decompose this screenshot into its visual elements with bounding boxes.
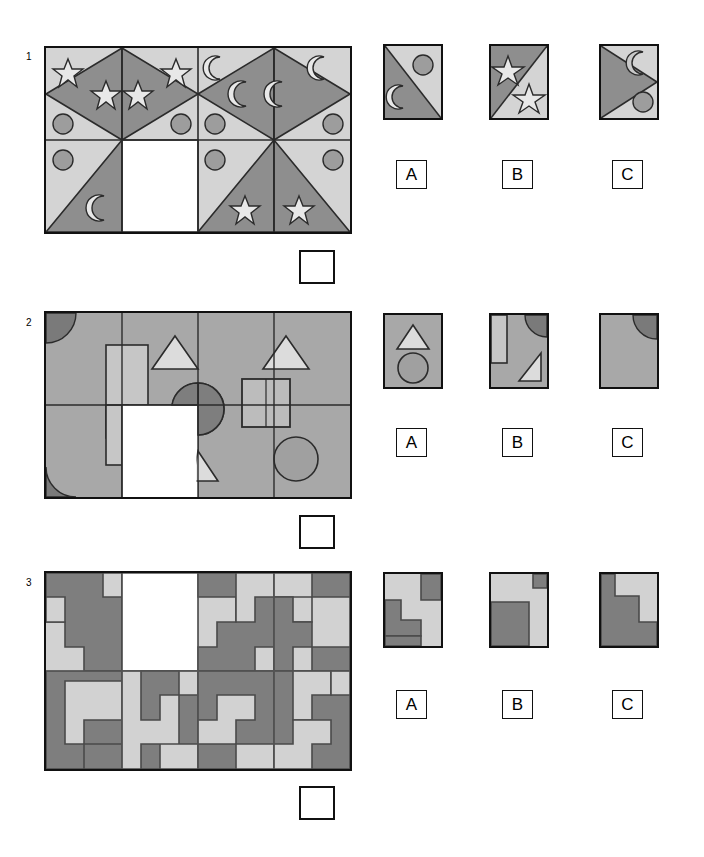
puzzle-1-option-b-tile[interactable] xyxy=(489,44,549,120)
puzzle-2-option-a-tile[interactable] xyxy=(383,313,443,389)
puzzle-1-option-c-label[interactable]: C xyxy=(612,160,643,189)
puzzle-3-matrix-graphic xyxy=(46,573,350,769)
puzzle-2-number: 2 xyxy=(26,318,32,328)
puzzle-3-option-a-label[interactable]: A xyxy=(396,690,427,719)
puzzle-1-option-a-tile[interactable] xyxy=(383,44,443,120)
puzzle-2-answer-box[interactable] xyxy=(299,515,335,549)
puzzle-1-option-a-label[interactable]: A xyxy=(396,160,427,189)
puzzle-2-option-c-label[interactable]: C xyxy=(612,428,643,457)
puzzle-1-matrix-graphic xyxy=(46,48,350,232)
puzzle-3-answer-box[interactable] xyxy=(299,786,335,820)
puzzle-3-matrix xyxy=(44,571,352,771)
puzzle-3-number: 3 xyxy=(26,578,32,588)
clipped-header xyxy=(66,0,386,3)
puzzle-2-matrix-graphic xyxy=(46,313,350,497)
puzzle-1-number: 1 xyxy=(26,52,32,62)
puzzle-3-option-c-tile[interactable] xyxy=(599,572,659,648)
puzzle-3-option-b-tile[interactable] xyxy=(489,572,549,648)
puzzle-3-option-a-tile[interactable] xyxy=(383,572,443,648)
puzzle-3-option-b-label[interactable]: B xyxy=(502,690,533,719)
puzzle-1-option-c-tile[interactable] xyxy=(599,44,659,120)
test-page: 1 xyxy=(0,0,704,857)
puzzle-2-option-c-tile[interactable] xyxy=(599,313,659,389)
puzzle-2-matrix xyxy=(44,311,352,499)
puzzle-1-option-b-label[interactable]: B xyxy=(502,160,533,189)
puzzle-3-option-c-label[interactable]: C xyxy=(612,690,643,719)
puzzle-2-option-a-label[interactable]: A xyxy=(396,428,427,457)
puzzle-1-matrix xyxy=(44,46,352,234)
puzzle-2-option-b-tile[interactable] xyxy=(489,313,549,389)
puzzle-1-answer-box[interactable] xyxy=(299,250,335,284)
puzzle-2-option-b-label[interactable]: B xyxy=(502,428,533,457)
